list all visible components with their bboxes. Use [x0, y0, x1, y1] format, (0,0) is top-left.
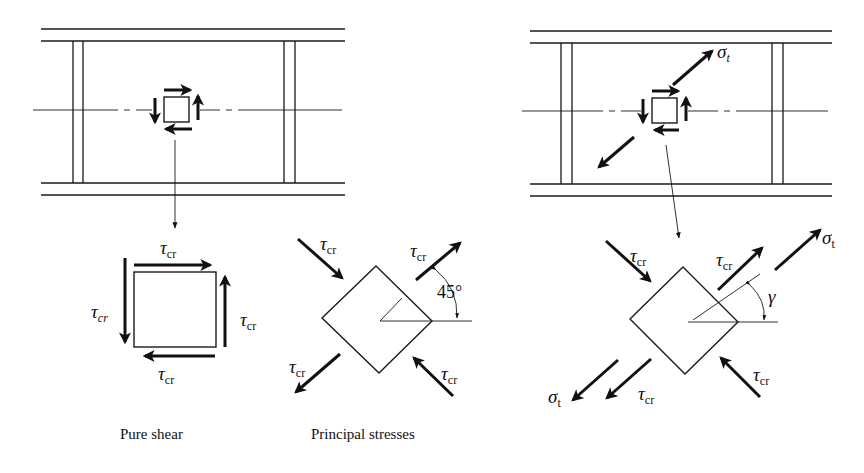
tension-label-top: σt — [717, 41, 730, 65]
tau-label-bottom-left: τcr — [638, 383, 654, 407]
tau-label-left: τcr — [91, 301, 108, 325]
caption-pure-shear: Pure shear — [120, 426, 183, 442]
angle-gamma-label: γ — [768, 286, 776, 307]
sigma-label-top-right: σt — [822, 227, 835, 251]
tau-label-bottom: τcr — [158, 363, 174, 387]
angle-label: 45° — [437, 282, 462, 302]
left-girder-panel — [33, 29, 345, 228]
tension-arrow-top-right-icon — [775, 230, 820, 270]
tau-label-top-right: τcr — [716, 249, 732, 273]
tau-label-top: τcr — [160, 237, 176, 261]
tau-label-top-right: τcr — [410, 240, 426, 264]
right-girder-panel: σt — [522, 31, 832, 238]
shear-element-square — [134, 272, 216, 347]
tension-arrow-up-icon — [673, 51, 712, 85]
tau-label-bottom-right: τcr — [441, 363, 457, 387]
caption-principal-stresses: Principal stresses — [311, 426, 415, 442]
tau-label-top-left: τcr — [320, 233, 336, 257]
web-element-square — [164, 97, 189, 122]
tension-arrow-down-icon — [599, 137, 634, 167]
tau-label-bottom-right: τcr — [753, 364, 769, 388]
tau-label-right: τcr — [240, 309, 256, 333]
tension-field-element: γ τcr τcr σt τcr σt τcr — [548, 227, 835, 410]
tau-label-top-left: τcr — [630, 245, 646, 269]
sigma-label-bottom-left: σt — [548, 386, 561, 410]
angle-arc-icon — [750, 285, 764, 320]
web-element-square — [652, 98, 677, 123]
shear-buckling-diagram: σt τcr τcr τcr τcr Pure shear 45° τcr τc… — [0, 0, 864, 473]
tau-label-bottom-left: τcr — [289, 356, 305, 380]
detail-pointer-arrow-icon — [666, 145, 679, 238]
pure-shear-element: τcr τcr τcr τcr Pure shear — [91, 237, 256, 442]
principal-stresses-element: 45° τcr τcr τcr τcr Principal stresses — [289, 233, 472, 442]
